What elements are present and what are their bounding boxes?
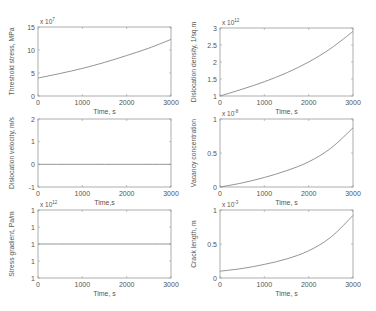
x-tick-label: 1000 bbox=[75, 99, 91, 106]
y-tick-label: 0.5 bbox=[207, 241, 217, 248]
x-tick-label: 2000 bbox=[119, 99, 135, 106]
x-tick-label: 3000 bbox=[345, 99, 361, 106]
y-tick-label: 1.5 bbox=[207, 76, 217, 83]
y-tick-label: 1 bbox=[31, 207, 35, 214]
axes-box bbox=[38, 27, 171, 96]
y-tick-label: 1 bbox=[31, 241, 35, 248]
x-axis-label: Time, s bbox=[93, 108, 116, 115]
y-tick-label: 3 bbox=[213, 25, 217, 32]
figure: 0100020003000051015x 107Time, sThreshold… bbox=[0, 0, 376, 311]
data-line bbox=[220, 31, 353, 96]
x-axis-label: Time,s bbox=[94, 199, 115, 206]
x-tick-label: 2000 bbox=[301, 281, 317, 288]
y-axis-label: Vacancy concentration bbox=[190, 119, 198, 187]
y-tick-label: 0 bbox=[213, 275, 217, 282]
x-tick-label: 1000 bbox=[75, 281, 91, 288]
x-axis-label: Time, s bbox=[275, 290, 298, 297]
x-tick-label: 1000 bbox=[257, 99, 273, 106]
subplot-crack-length: 010002000300000.51x 10-3Time, sCrack len… bbox=[190, 200, 361, 297]
axes-box bbox=[220, 28, 353, 96]
x-tick-label: 3000 bbox=[345, 190, 361, 197]
y-tick-label: 1 bbox=[213, 116, 217, 123]
y-axis-label: Threshold stress, MPa bbox=[8, 27, 15, 95]
x-tick-label: 0 bbox=[218, 190, 222, 197]
x-tick-label: 2000 bbox=[301, 99, 317, 106]
x-axis-label: Time, s bbox=[93, 290, 116, 297]
y-tick-label: 1 bbox=[213, 207, 217, 214]
y-tick-label: 15 bbox=[27, 24, 35, 31]
data-line bbox=[38, 39, 171, 78]
x-tick-label: 0 bbox=[218, 281, 222, 288]
exponent-label: x 1012 bbox=[40, 200, 58, 208]
x-tick-label: 3000 bbox=[163, 99, 179, 106]
x-tick-label: 3000 bbox=[345, 281, 361, 288]
exponent-label: x 107 bbox=[40, 17, 55, 25]
x-axis-label: Time, s bbox=[275, 108, 298, 115]
exponent-label: x 10-8 bbox=[222, 109, 239, 117]
y-tick-label: 2 bbox=[31, 116, 35, 123]
y-axis-label: Dislocation density, 1/sq.m bbox=[190, 21, 198, 102]
axes-box bbox=[220, 210, 353, 278]
y-tick-label: 1 bbox=[31, 275, 35, 282]
x-axis-label: Time, s bbox=[275, 199, 298, 206]
y-tick-label: 1 bbox=[213, 93, 217, 100]
x-tick-label: 2000 bbox=[301, 190, 317, 197]
y-tick-label: 0.5 bbox=[207, 150, 217, 157]
y-tick-label: 0 bbox=[213, 184, 217, 191]
subplot-dislocation-velocity: 0100020003000-1012Time,sDislocation velo… bbox=[8, 116, 179, 207]
x-tick-label: 1000 bbox=[75, 190, 91, 197]
y-tick-label: 2.5 bbox=[207, 42, 217, 49]
y-tick-label: 1 bbox=[31, 258, 35, 265]
y-axis-label: Dislocation velocity, m/s bbox=[8, 116, 16, 189]
data-line bbox=[220, 128, 353, 187]
y-tick-label: 1 bbox=[31, 224, 35, 231]
axes-box bbox=[220, 119, 353, 187]
axes-box bbox=[38, 119, 171, 187]
subplot-stress-gradient: 010002000300011111x 1012Time, sStress gr… bbox=[8, 200, 179, 297]
y-tick-label: 10 bbox=[27, 47, 35, 54]
x-tick-label: 0 bbox=[218, 99, 222, 106]
x-tick-label: 2000 bbox=[119, 190, 135, 197]
y-axis-label: Crack length, m bbox=[190, 220, 198, 268]
x-tick-label: 0 bbox=[36, 190, 40, 197]
subplot-threshold-stress: 0100020003000051015x 107Time, sThreshold… bbox=[8, 17, 179, 115]
subplot-vacancy-concentration: 010002000300000.51x 10-8Time, sVacancy c… bbox=[190, 109, 361, 206]
x-tick-label: 1000 bbox=[257, 190, 273, 197]
x-tick-label: 0 bbox=[36, 281, 40, 288]
y-tick-label: -1 bbox=[29, 184, 35, 191]
y-tick-label: 5 bbox=[31, 70, 35, 77]
x-tick-label: 3000 bbox=[163, 281, 179, 288]
x-tick-label: 1000 bbox=[257, 281, 273, 288]
y-tick-label: 0 bbox=[31, 161, 35, 168]
x-tick-label: 3000 bbox=[163, 190, 179, 197]
exponent-label: x 1012 bbox=[222, 18, 240, 26]
y-tick-label: 1 bbox=[31, 138, 35, 145]
y-tick-label: 2 bbox=[213, 59, 217, 66]
exponent-label: x 10-3 bbox=[222, 200, 239, 208]
data-line bbox=[220, 215, 353, 271]
subplot-dislocation-density: 010002000300011.522.53x 1012Time, sDislo… bbox=[190, 18, 361, 115]
y-tick-label: 0 bbox=[31, 93, 35, 100]
x-tick-label: 2000 bbox=[119, 281, 135, 288]
x-tick-label: 0 bbox=[36, 99, 40, 106]
y-axis-label: Stress gradient, Pa/m bbox=[8, 211, 16, 277]
